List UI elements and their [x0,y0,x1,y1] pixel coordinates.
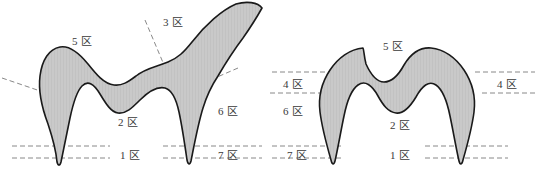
left-tooth-outline-shape [39,2,262,165]
left-zone-2-label: 2 区 [118,117,139,128]
right-zone-7-label: 7 区 [287,150,308,161]
tooth-zone-figure: 5 区 3 区 2 区 6 区 1 区 7 区 [0,0,537,171]
right-zone-1-label: 1 区 [390,150,411,161]
right-tooth-diagram: 5 区 4 区 4 区 6 区 2 区 7 区 1 区 [270,0,537,171]
left-zone-5-label: 5 区 [72,36,93,47]
left-tooth-diagram: 5 区 3 区 2 区 6 区 1 区 7 区 [0,0,270,171]
right-zone-2-label: 2 区 [390,120,411,131]
right-tooth-outline-shape [319,48,474,164]
left-zone-3-label: 3 区 [163,17,184,28]
left-zone-6-label: 6 区 [218,106,239,117]
right-zone-4-right-label: 4 区 [497,79,518,90]
left-zone-1-label: 1 区 [120,150,141,161]
left-diagram-canvas [0,0,270,171]
right-zone-5-label: 5 区 [383,41,404,52]
right-zone-4-left-label: 4 区 [283,79,304,90]
right-zone-6-label: 6 区 [283,106,304,117]
left-zone-7-label: 7 区 [218,150,239,161]
